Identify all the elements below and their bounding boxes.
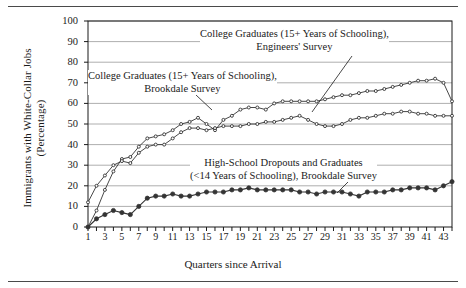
data-point [425,112,428,115]
data-point [247,106,250,109]
data-point [264,108,267,111]
data-point [95,209,98,212]
annotation-brookdale-college-line1: College Graduates (15+ Years of Schoolin… [88,70,277,83]
data-point [451,114,454,117]
annotation-high-school-line1: High-School Dropouts and Graduates [190,157,377,170]
data-point [112,164,115,167]
data-point [315,192,319,196]
data-point [222,125,225,128]
data-point [442,81,445,84]
data-point [315,100,318,103]
data-point [205,129,208,132]
annotation-engineers-line1: College Graduates (15+ Years of Schoolin… [200,28,389,41]
data-point [331,190,335,194]
data-point [391,188,395,192]
data-point [255,188,259,192]
data-point [120,160,123,163]
data-point [348,192,352,196]
data-point [86,225,90,229]
data-point [256,106,259,109]
data-point [137,151,140,154]
data-point [442,114,445,117]
data-point [239,125,242,128]
data-point [341,94,344,97]
data-point [400,83,403,86]
data-point [213,190,217,194]
data-point [417,79,420,82]
data-point [171,192,175,196]
data-point [154,194,158,198]
data-point [137,145,140,148]
data-point [188,120,191,123]
annotation-brookdale-college: College Graduates (15+ Years of Schoolin… [88,70,277,95]
data-point [264,188,268,192]
data-point [129,162,132,165]
figure: Immigrants with White-Collar Jobs (Perce… [0,0,466,288]
data-point [306,190,310,194]
data-point [247,123,250,126]
data-point [94,217,98,221]
series-line-0 [88,79,452,227]
data-point [95,184,98,187]
data-point [399,188,403,192]
data-point [417,112,420,115]
data-point [324,125,327,128]
data-point [129,156,132,159]
data-point [238,188,242,192]
data-point [450,180,454,184]
data-point [290,100,293,103]
data-point [247,186,251,190]
data-point [103,213,107,217]
data-point [425,79,428,82]
data-point [298,114,301,117]
annotation-brookdale-college-line2: Brookdale Survey [88,83,277,96]
data-point [103,188,106,191]
data-point [120,211,124,215]
data-point [171,137,174,140]
annotation-high-school: High-School Dropouts and Graduates (<14 … [190,157,377,182]
data-point [374,90,377,93]
data-point [163,133,166,136]
data-point [87,201,90,204]
data-point [324,98,327,101]
data-point [366,90,369,93]
data-point [197,127,200,130]
data-point [298,190,302,194]
data-point [273,102,276,105]
data-point [180,131,183,134]
data-point [188,127,191,130]
data-point [180,123,183,126]
data-point [341,123,344,126]
data-point [179,194,183,198]
data-point [434,77,437,80]
data-point [323,190,327,194]
data-point [256,123,259,126]
data-point [441,184,445,188]
data-point [307,118,310,121]
data-point [196,192,200,196]
data-point [146,137,149,140]
data-point [281,118,284,121]
data-point [365,190,369,194]
data-point [425,186,429,190]
data-point [374,190,378,194]
data-point [154,135,157,138]
data-point [281,100,284,103]
annotation-engineers-line2: Engineers' Survey [200,41,389,54]
data-point [272,188,276,192]
data-point [366,116,369,119]
data-point [391,112,394,115]
data-point [146,145,149,148]
data-point [221,190,225,194]
data-point [273,120,276,123]
data-point [112,170,115,173]
data-point [307,100,310,103]
annotation-high-school-line2: (<14 Years of Schooling), Brookdale Surv… [190,170,377,183]
data-point [289,188,293,192]
data-point [357,116,360,119]
data-point [374,114,377,117]
series-line-2 [88,182,452,227]
data-point [408,81,411,84]
data-point [188,194,192,198]
data-point [230,114,233,117]
